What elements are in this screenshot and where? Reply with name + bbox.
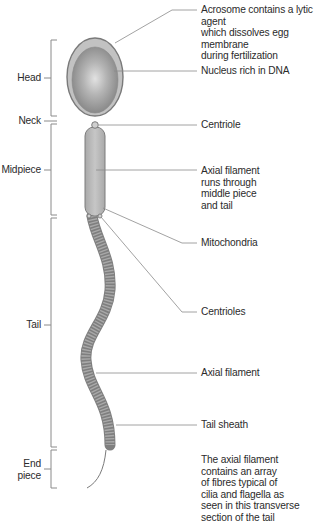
bracket-head xyxy=(51,40,57,116)
midpiece-body xyxy=(85,127,105,216)
annotation-axial-filament-midpiece: Axial filament runs through middle piece… xyxy=(201,165,259,211)
annotation-acrosome: Acrosome contains a lytic agent which di… xyxy=(201,4,327,62)
annotation-centriole: Centriole xyxy=(201,119,240,131)
bracket-end-piece xyxy=(51,450,57,488)
centriole-neck xyxy=(92,122,99,129)
leader-acrosome xyxy=(115,10,197,43)
region-brackets xyxy=(44,40,57,488)
annotation-mitochondria: Mitochondria xyxy=(201,237,258,249)
bracket-midpiece xyxy=(51,124,57,215)
leader-centrioles xyxy=(101,217,197,312)
head-nucleus xyxy=(72,47,118,113)
leader-mitochondria xyxy=(103,208,197,243)
centriole-base-left xyxy=(87,214,91,218)
annotation-nucleus: Nucleus rich in DNA xyxy=(201,65,289,77)
annotation-centrioles: Centrioles xyxy=(201,306,245,318)
region-label-head: Head xyxy=(17,72,41,84)
bracket-tail xyxy=(51,218,57,447)
annotation-axial-filament-tail: Axial filament xyxy=(201,367,259,379)
sperm-diagram xyxy=(0,0,327,529)
annotation-tail-sheath: Tail sheath xyxy=(201,419,248,431)
region-label-end-piece: End piece xyxy=(17,458,41,481)
region-label-neck: Neck xyxy=(18,115,41,127)
end-piece-filament xyxy=(87,450,106,488)
region-label-tail: Tail xyxy=(26,319,41,331)
annotation-transverse-note: The axial filament contains an array of … xyxy=(201,454,299,524)
region-label-midpiece: Midpiece xyxy=(1,164,41,176)
